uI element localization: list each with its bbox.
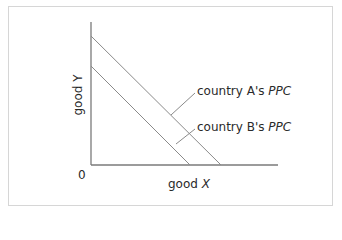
label-text: country A's	[197, 84, 268, 98]
ppc-country-a	[91, 36, 221, 165]
leader-line-a	[171, 93, 195, 115]
country-b-ppc-label: country B's PPC	[197, 120, 291, 134]
label-italic: X	[202, 177, 210, 191]
label-text: country B's	[197, 120, 268, 134]
country-a-ppc-label: country A's PPC	[197, 84, 291, 98]
x-axis-label: good X	[168, 177, 210, 191]
label-text: good	[168, 177, 202, 191]
ppc-country-b	[91, 66, 190, 165]
origin-label: 0	[78, 168, 86, 182]
y-axis-label: good Y	[71, 72, 85, 118]
label-italic: PPC	[268, 120, 291, 134]
label-italic: PPC	[268, 84, 291, 98]
